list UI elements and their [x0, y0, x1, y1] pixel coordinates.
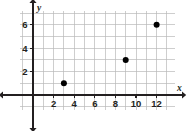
x-tick-label: 6 [92, 98, 97, 109]
y-tick-label: 2 [22, 66, 27, 77]
scatter-plot-svg: 24681012 246 xy [0, 0, 190, 131]
x-tick-label: 4 [72, 98, 78, 109]
y-tick-label: 4 [22, 43, 28, 54]
data-point [154, 22, 160, 28]
x-axis-label: x [176, 83, 182, 93]
x-tick-label: 10 [131, 98, 142, 109]
x-tick-label: 12 [151, 98, 162, 109]
y-axis-tick-labels: 246 [22, 19, 28, 77]
y-tick-label: 6 [22, 19, 27, 30]
coordinate-plane-figure: 24681012 246 xy [0, 0, 190, 131]
data-point [61, 80, 67, 86]
x-tick-label: 2 [51, 98, 56, 109]
x-tick-label: 8 [113, 98, 118, 109]
data-point [123, 57, 129, 63]
y-axis-label: y [36, 3, 42, 13]
